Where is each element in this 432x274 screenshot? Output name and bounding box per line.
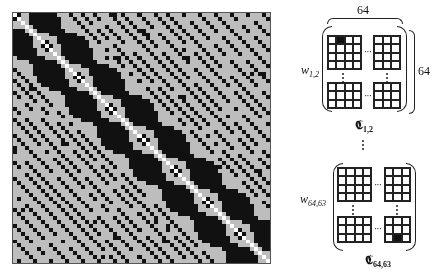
subgrid-cell	[363, 185, 371, 193]
subgrid-cell	[363, 168, 371, 176]
subgrid-cell	[383, 83, 392, 91]
subgrid-cell	[374, 44, 383, 52]
subgrid-cell	[385, 185, 393, 193]
subgrid-cell	[363, 234, 371, 242]
subgrid-cell	[346, 193, 354, 201]
subgrid-cell	[385, 193, 393, 201]
bottom-upper-right-subgrid	[384, 167, 411, 202]
subgrid-cell	[391, 53, 400, 61]
subgrid-cell	[363, 193, 371, 201]
subgrid-cell	[355, 193, 363, 201]
subgrid-cell	[374, 36, 383, 44]
top-right-subgrid	[373, 35, 401, 70]
subgrid-cell	[402, 176, 410, 184]
subgrid-cell	[374, 61, 383, 69]
top-lower-left-subgrid	[327, 82, 362, 109]
subgrid-cell	[346, 225, 354, 233]
top-row-label: w1,2	[301, 63, 319, 79]
bottom-lower-left-subgrid	[337, 216, 372, 243]
subgrid-cell	[345, 36, 353, 44]
bottom-lower-ellipsis: ···	[374, 223, 381, 234]
subgrid-cell	[402, 234, 410, 242]
subgrid-cell	[353, 36, 361, 44]
subgrid-cell	[391, 83, 400, 91]
subgrid-cell	[336, 83, 344, 91]
subgrid-cell	[383, 61, 392, 69]
top-upper-ellipsis: ···	[364, 46, 371, 57]
subgrid-cell	[402, 185, 410, 193]
bottom-upper-ellipsis: ···	[374, 179, 381, 190]
subgrid-cell	[345, 44, 353, 52]
subgrid-cell	[353, 91, 361, 99]
top-lower-right-subgrid	[373, 82, 401, 109]
subgrid-cell	[383, 91, 392, 99]
subgrid-cell	[338, 185, 346, 193]
subgrid-cell	[328, 36, 336, 44]
subgrid-cell	[338, 168, 346, 176]
subgrid-cell	[363, 225, 371, 233]
bottom-caption: 𝕮64,63	[365, 253, 391, 269]
subgrid-cell	[336, 36, 344, 44]
subgrid-cell	[336, 53, 344, 61]
subgrid-cell	[346, 168, 354, 176]
top-lower-ellipsis: ···	[364, 90, 371, 101]
subgrid-cell	[336, 44, 344, 52]
top-caption: 𝕮1,2	[355, 118, 373, 134]
subgrid-cell	[338, 193, 346, 201]
subgrid-cell	[338, 217, 346, 225]
subgrid-cell	[336, 100, 344, 108]
top-block-diagram: 64 64 w1,2 ··· ··· 𝕮1,2 w64,63 ··· ··· 𝕮…	[0, 0, 432, 274]
subgrid-cell	[385, 176, 393, 184]
between-blocks-vdots	[362, 140, 364, 152]
subgrid-cell	[393, 193, 401, 201]
subgrid-cell	[402, 193, 410, 201]
subgrid-cell	[328, 53, 336, 61]
subgrid-cell	[353, 53, 361, 61]
subgrid-cell	[338, 225, 346, 233]
subgrid-cell	[385, 217, 393, 225]
subgrid-cell	[353, 61, 361, 69]
subgrid-cell	[346, 234, 354, 242]
subgrid-cell	[336, 91, 344, 99]
subgrid-cell	[393, 225, 401, 233]
subgrid-cell	[402, 217, 410, 225]
subgrid-cell	[393, 217, 401, 225]
bottom-row-label: w64,63	[300, 192, 326, 208]
subgrid-cell	[393, 176, 401, 184]
top-left-subgrid	[327, 35, 362, 70]
width-label: 64	[357, 3, 369, 18]
bottom-upper-left-subgrid	[337, 167, 372, 202]
subgrid-cell	[338, 234, 346, 242]
height-label: 64	[418, 64, 430, 79]
subgrid-cell	[355, 185, 363, 193]
subgrid-cell	[393, 185, 401, 193]
subgrid-cell	[346, 185, 354, 193]
subgrid-cell	[328, 100, 336, 108]
subgrid-cell	[355, 217, 363, 225]
subgrid-cell	[393, 168, 401, 176]
subgrid-cell	[383, 44, 392, 52]
subgrid-cell	[355, 176, 363, 184]
subgrid-cell	[338, 176, 346, 184]
subgrid-cell	[345, 91, 353, 99]
subgrid-cell	[363, 176, 371, 184]
subgrid-cell	[355, 234, 363, 242]
subgrid-cell	[345, 100, 353, 108]
subgrid-cell	[383, 36, 392, 44]
subgrid-cell	[346, 217, 354, 225]
subgrid-cell	[353, 44, 361, 52]
subgrid-cell	[402, 168, 410, 176]
subgrid-cell	[363, 217, 371, 225]
subgrid-cell	[402, 225, 410, 233]
width-brace	[327, 18, 403, 24]
subgrid-cell	[385, 234, 393, 242]
subgrid-cell	[383, 100, 392, 108]
subgrid-cell	[328, 61, 336, 69]
subgrid-cell	[345, 83, 353, 91]
subgrid-cell	[328, 91, 336, 99]
subgrid-cell	[345, 53, 353, 61]
subgrid-cell	[353, 83, 361, 91]
subgrid-cell	[383, 53, 392, 61]
subgrid-cell	[345, 61, 353, 69]
subgrid-cell	[355, 225, 363, 233]
